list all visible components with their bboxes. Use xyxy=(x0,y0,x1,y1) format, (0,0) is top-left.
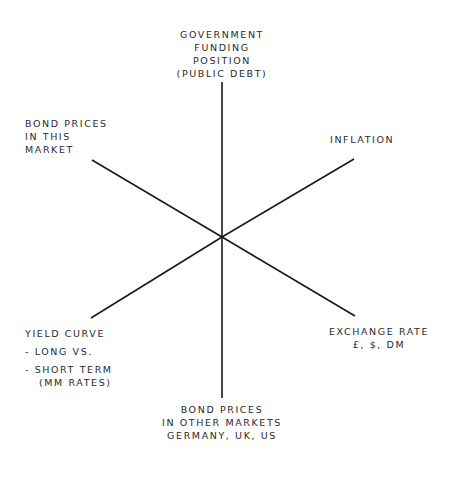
node-line: IN OTHER MARKETS xyxy=(157,416,287,429)
node-line: MARKET xyxy=(25,143,108,156)
spoke-exchange-rate xyxy=(222,237,355,316)
node-bond-prices-other-markets: BOND PRICES IN OTHER MARKETS GERMANY, UK… xyxy=(157,403,287,442)
node-line: (MM RATES) xyxy=(25,376,113,389)
node-line: FUNDING xyxy=(162,41,282,54)
node-yield-curve: YIELD CURVE - LONG VS. - SHORT TERM (MM … xyxy=(25,327,113,394)
node-line: BOND PRICES xyxy=(157,403,287,416)
node-government-funding: GOVERNMENT FUNDING POSITION (PUBLIC DEBT… xyxy=(162,28,282,80)
node-exchange-rate: EXCHANGE RATE £, $, DM xyxy=(328,325,430,351)
node-line: GOVERNMENT xyxy=(162,28,282,41)
spoke-inflation xyxy=(222,159,354,237)
node-line: IN THIS xyxy=(25,130,108,143)
spoke-bond-prices-this-market xyxy=(92,160,222,237)
node-inflation: INFLATION xyxy=(330,133,394,146)
radial-diagram: GOVERNMENT FUNDING POSITION (PUBLIC DEBT… xyxy=(0,0,450,477)
node-line: YIELD CURVE xyxy=(25,327,113,340)
node-line: INFLATION xyxy=(330,133,394,146)
node-bond-prices-this-market: BOND PRICES IN THIS MARKET xyxy=(25,117,108,156)
node-line: POSITION xyxy=(162,54,282,67)
node-line: (PUBLIC DEBT) xyxy=(162,67,282,80)
node-line: BOND PRICES xyxy=(25,117,108,130)
node-line: GERMANY, UK, US xyxy=(157,429,287,442)
node-line: - SHORT TERM xyxy=(25,363,113,376)
node-line: - LONG VS. xyxy=(25,345,113,358)
node-line: £, $, DM xyxy=(328,338,430,351)
node-line: EXCHANGE RATE xyxy=(328,325,430,338)
spoke-yield-curve xyxy=(91,237,222,318)
